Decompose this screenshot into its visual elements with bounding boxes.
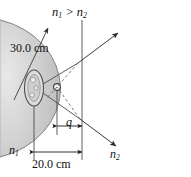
label-medium-right-symbol: n2: [110, 147, 120, 161]
label-medium-left-symbol: n1: [9, 143, 19, 157]
label-radius: 30.0 cm: [10, 42, 49, 54]
label-medium-right: n2: [110, 148, 120, 161]
ray-virtual-extension-upper: [57, 63, 78, 87]
optics-refraction-figure: n1 > n2 30.0 cm n1 n2 20.0 cm q: [0, 0, 191, 177]
figure-graphics: [0, 0, 191, 177]
label-index-relation-operator: >: [62, 5, 77, 19]
label-index-relation-n1: n1: [52, 5, 62, 19]
label-medium-left: n1: [9, 144, 19, 157]
label-index-relation-n2: n2: [77, 5, 87, 19]
object-fish: [25, 70, 44, 106]
label-index-relation: n1 > n2: [52, 6, 87, 19]
label-object-distance: 20.0 cm: [32, 158, 71, 170]
observer-eye-photograph: [108, 51, 190, 139]
label-image-distance: q: [66, 116, 72, 128]
